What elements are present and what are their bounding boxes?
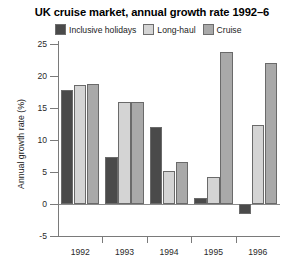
bar xyxy=(176,162,189,204)
bar xyxy=(220,52,233,204)
legend-item-inclusive-holidays: Inclusive holidays xyxy=(55,24,136,35)
y-axis-label: 5 xyxy=(18,167,47,177)
legend-item-cruise: Cruise xyxy=(203,24,242,35)
y-axis-tick xyxy=(50,204,59,205)
y-axis-label: 25 xyxy=(18,39,47,49)
bar xyxy=(74,85,87,204)
legend-swatch-cruise xyxy=(203,24,214,35)
bar xyxy=(194,198,207,204)
chart-figure: UK cruise market, annual growth rate 199… xyxy=(0,0,304,274)
bar xyxy=(150,127,163,204)
y-axis-tick xyxy=(50,140,59,141)
y-axis-tick xyxy=(50,108,59,109)
x-axis-tick xyxy=(147,237,148,243)
chart-title: UK cruise market, annual growth rate 199… xyxy=(0,6,304,18)
legend-label-long-haul: Long-haul xyxy=(157,25,195,35)
chart-legend: Inclusive holidays Long-haul Cruise xyxy=(55,24,241,35)
y-axis-tick xyxy=(50,172,59,173)
legend-label-cruise: Cruise xyxy=(217,25,242,35)
bar xyxy=(239,204,252,214)
y-axis-label: 0 xyxy=(18,199,47,209)
bar xyxy=(87,84,100,204)
x-axis-label-1996: 1996 xyxy=(236,247,280,257)
bar xyxy=(131,102,144,204)
x-axis-tick xyxy=(102,237,103,243)
y-axis-label: 15 xyxy=(18,103,47,113)
x-axis-tick xyxy=(236,237,237,243)
legend-swatch-inclusive-holidays xyxy=(55,24,66,35)
bar xyxy=(207,177,220,204)
x-axis-label-1993: 1993 xyxy=(103,247,147,257)
bar xyxy=(118,102,131,204)
legend-item-long-haul: Long-haul xyxy=(143,24,195,35)
x-axis-tick xyxy=(191,237,192,243)
y-axis-label: 10 xyxy=(18,135,47,145)
bar xyxy=(61,90,74,204)
y-axis-tick xyxy=(50,76,59,77)
y-axis-label: 20 xyxy=(18,71,47,81)
bar xyxy=(105,157,118,204)
x-axis-label-1992: 1992 xyxy=(58,247,102,257)
y-axis-tick xyxy=(50,236,59,237)
y-axis-tick xyxy=(50,44,59,45)
bar xyxy=(163,171,176,204)
bar xyxy=(252,125,265,204)
x-axis-label-1995: 1995 xyxy=(191,247,235,257)
y-axis-label: -5 xyxy=(18,231,47,241)
bar xyxy=(265,63,278,204)
legend-swatch-long-haul xyxy=(143,24,154,35)
legend-label-inclusive-holidays: Inclusive holidays xyxy=(69,25,136,35)
x-axis-label-1994: 1994 xyxy=(147,247,191,257)
